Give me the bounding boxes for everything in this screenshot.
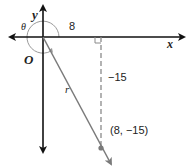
coordinate-diagram: y x θ O 8 −15 r (8, −15)	[0, 0, 196, 168]
radius-label: r	[65, 83, 70, 95]
origin-label: O	[24, 52, 34, 67]
vertical-leg-label: −15	[108, 71, 127, 83]
point-label: (8, −15)	[110, 124, 148, 136]
point-marker	[98, 145, 103, 150]
right-angle-marker	[95, 37, 101, 43]
angle-label: θ	[21, 21, 26, 32]
x-axis-label: x	[166, 37, 173, 51]
horizontal-leg-label: 8	[69, 20, 75, 32]
y-axis-label: y	[30, 7, 38, 22]
diagram-canvas: y x θ O 8 −15 r (8, −15)	[0, 0, 196, 168]
